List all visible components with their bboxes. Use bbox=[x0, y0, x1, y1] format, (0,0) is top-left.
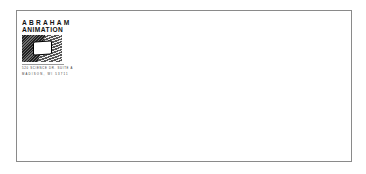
company-logo: ABRAHAM ANIMATION 520 SCIENCE DR. SUITE … bbox=[22, 19, 64, 76]
company-name-line1: ABRAHAM bbox=[22, 19, 64, 26]
address-line1: 520 SCIENCE DR. SUITE A bbox=[22, 64, 64, 70]
address-line2: MADISON, WI 53711 bbox=[22, 72, 64, 76]
envelope bbox=[16, 10, 352, 162]
television-icon bbox=[22, 35, 62, 62]
company-name-line2: ANIMATION bbox=[22, 26, 64, 34]
